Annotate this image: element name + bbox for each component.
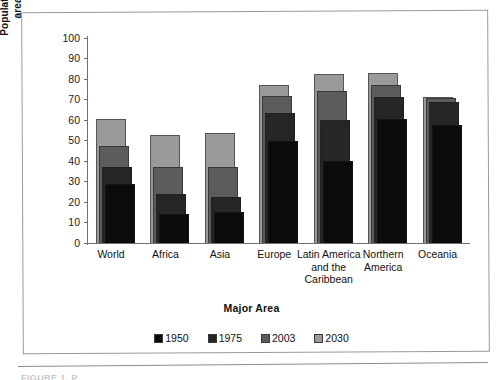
y-axis-tick-label: 70 — [68, 94, 84, 105]
legend-label-2003: 2003 — [272, 333, 295, 344]
legend-swatch-1950 — [154, 334, 163, 343]
figure-caption: FIGURE 1. P — [21, 373, 141, 380]
bar-group — [368, 38, 410, 243]
bar-group — [96, 38, 138, 243]
legend-swatch-2030 — [314, 334, 323, 343]
y-axis-tick-label: 50 — [68, 135, 84, 146]
bar-1950 — [323, 161, 353, 243]
legend-item-1950: 1950 — [154, 333, 188, 344]
bar-1950 — [159, 214, 189, 243]
y-axis-tick-label: 30 — [68, 176, 84, 187]
y-axis-title-line-1: Population living in urban — [0, 0, 11, 58]
y-axis-title-line-2: areas (percentage) — [11, 0, 24, 58]
legend-item-1975: 1975 — [208, 333, 242, 344]
bar-1950 — [105, 184, 135, 243]
bar-1950 — [268, 141, 298, 244]
bar-1950 — [214, 212, 244, 243]
y-axis-tick-label: 0 — [74, 237, 84, 248]
chart-legend: 1950197520032030 — [0, 333, 503, 344]
legend-swatch-2003 — [261, 334, 270, 343]
plot-area — [88, 38, 469, 243]
bar-group — [314, 38, 356, 243]
x-axis-title: Major Area — [0, 302, 503, 314]
y-axis-tick-label: 100 — [62, 32, 84, 43]
x-axis-line — [86, 243, 470, 244]
bar-1950 — [377, 119, 407, 243]
y-axis-tick-label: 10 — [68, 217, 84, 228]
y-axis-tick-label: 20 — [68, 196, 84, 207]
bar-group — [259, 38, 301, 243]
legend-label-1950: 1950 — [165, 333, 188, 344]
y-axis-tick-label: 40 — [68, 155, 84, 166]
figure-bottom-rule — [18, 362, 488, 367]
bar-1950 — [432, 125, 462, 243]
y-axis-tick-label: 60 — [68, 114, 84, 125]
x-axis-tick-label-line: Oceania — [395, 248, 481, 261]
bar-group — [150, 38, 192, 243]
bar-group — [423, 38, 465, 243]
legend-label-1975: 1975 — [219, 333, 242, 344]
figure-page: Population living in urban areas (percen… — [0, 0, 503, 380]
y-axis-title: Population living in urban areas (percen… — [0, 0, 24, 58]
x-axis-tick-label-line: Caribbean — [286, 273, 372, 286]
y-axis-tick-label: 80 — [68, 73, 84, 84]
legend-swatch-1975 — [208, 334, 217, 343]
legend-item-2030: 2030 — [314, 333, 348, 344]
legend-item-2003: 2003 — [261, 333, 295, 344]
x-axis-tick-label: Oceania — [395, 248, 481, 261]
x-axis-tick-label-line: America — [340, 261, 426, 274]
legend-label-2030: 2030 — [325, 333, 348, 344]
bar-group — [205, 38, 247, 243]
y-axis-tick-label: 90 — [68, 53, 84, 64]
